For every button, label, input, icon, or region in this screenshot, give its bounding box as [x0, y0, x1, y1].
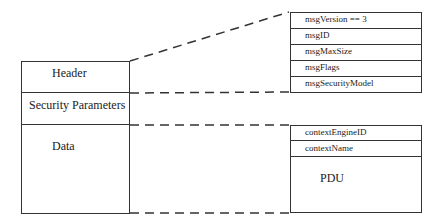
- field-msg-max-size: msgMaxSize: [305, 46, 352, 56]
- data-field-divider: [290, 156, 422, 157]
- field-msg-version: msgVersion == 3: [305, 14, 367, 24]
- field-pdu: PDU: [320, 171, 344, 186]
- field-msg-flags: msgFlags: [305, 62, 340, 72]
- header-field-divider: [290, 28, 422, 29]
- header-field-divider: [290, 44, 422, 45]
- connector-header-top: [130, 12, 289, 61]
- divider-security-data: [21, 124, 130, 125]
- field-msg-security-model: msgSecurityModel: [305, 78, 374, 88]
- section-security-parameters-label: Security Parameters: [29, 98, 125, 113]
- section-header-label: Header: [52, 66, 87, 81]
- header-field-divider: [290, 60, 422, 61]
- field-msg-id: msgID: [305, 30, 330, 40]
- header-field-divider: [290, 76, 422, 77]
- connector-header-bottom: [130, 92, 289, 93]
- field-context-name: contextName: [305, 143, 353, 153]
- field-context-engine-id: contextEngineID: [305, 127, 366, 137]
- message-stack: [21, 61, 130, 214]
- section-data-label: Data: [52, 139, 75, 154]
- divider-header-security: [21, 92, 130, 93]
- data-fields-box: [290, 125, 422, 213]
- data-field-divider: [290, 140, 422, 141]
